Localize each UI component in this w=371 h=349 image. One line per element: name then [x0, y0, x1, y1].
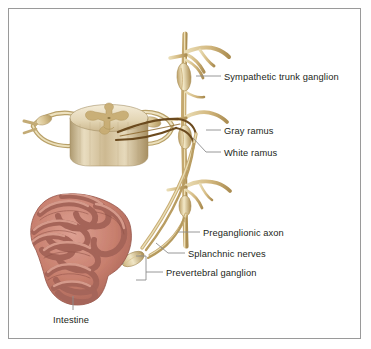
label-preganglionic-axon: Preganglionic axon — [203, 228, 284, 238]
anatomy-illustration — [0, 0, 371, 349]
label-gray-ramus: Gray ramus — [224, 126, 274, 136]
trunk-ganglion-upper — [170, 48, 229, 98]
spinal-cord — [24, 103, 172, 166]
intestine-structure — [31, 193, 132, 305]
label-sympathetic-trunk-ganglion: Sympathetic trunk ganglion — [224, 72, 339, 82]
label-prevertebral-ganglion: Prevertebral ganglion — [166, 268, 256, 278]
figure-canvas: Sympathetic trunk ganglion Gray ramus Wh… — [0, 0, 371, 349]
label-white-ramus: White ramus — [224, 148, 277, 158]
label-splanchnic-nerves: Splanchnic nerves — [188, 249, 266, 259]
leader-white-ramus — [193, 138, 221, 152]
label-intestine: Intestine — [53, 315, 89, 325]
